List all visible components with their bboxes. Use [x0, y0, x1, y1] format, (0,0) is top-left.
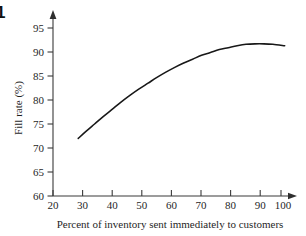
x-tick-label: 80	[225, 199, 237, 211]
y-axis-title: Fill rate (%)	[12, 81, 25, 135]
x-tick-label: 30	[77, 199, 89, 211]
line-chart: 60 65 70 75 80 85 90 95 20 30 40 50 60	[0, 0, 306, 236]
y-tick-label: 90	[33, 46, 45, 58]
y-axis	[50, 10, 57, 196]
y-axis-ticks	[48, 28, 54, 196]
x-tick-label: 20	[48, 199, 60, 211]
figure-container: 1 60 65 70 75 80 85 90 95	[0, 0, 306, 236]
x-axis-ticks	[53, 190, 281, 196]
x-tick-label: 90	[255, 199, 267, 211]
x-axis-tick-labels: 20 30 40 50 60 70 80 90 100	[48, 199, 292, 211]
y-axis-tick-labels: 60 65 70 75 80 85 90 95	[33, 22, 45, 202]
x-tick-label: 60	[166, 199, 178, 211]
x-axis-title: Percent of inventory sent immediately to…	[57, 218, 284, 230]
y-tick-label: 85	[33, 70, 45, 82]
x-tick-label: 100	[275, 199, 292, 211]
x-tick-label: 70	[196, 199, 208, 211]
fill-rate-curve	[78, 44, 284, 139]
y-axis-arrow-icon	[50, 10, 57, 19]
x-tick-label: 40	[107, 199, 119, 211]
y-tick-label: 80	[33, 94, 45, 106]
y-tick-label: 65	[33, 166, 45, 178]
y-tick-label: 95	[33, 22, 45, 34]
y-tick-label: 75	[33, 118, 45, 130]
x-tick-label: 50	[136, 199, 148, 211]
y-tick-label: 60	[33, 190, 45, 202]
y-tick-label: 70	[33, 142, 45, 154]
